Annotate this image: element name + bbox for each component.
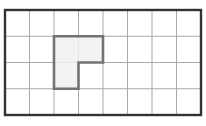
grid-figure	[0, 0, 206, 126]
highlighted-l-shape	[54, 36, 103, 89]
grid-diagram	[0, 0, 206, 126]
